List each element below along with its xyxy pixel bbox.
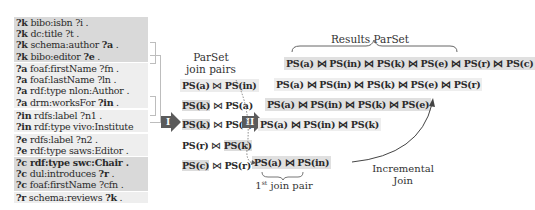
incremental-arrow: [352, 104, 432, 162]
incremental-arrowhead: [429, 98, 435, 107]
dotted-connector: [236, 80, 252, 163]
first-pair-brace: [262, 172, 303, 180]
results-brace: [292, 40, 457, 52]
dotted-arrowhead: [251, 160, 256, 165]
